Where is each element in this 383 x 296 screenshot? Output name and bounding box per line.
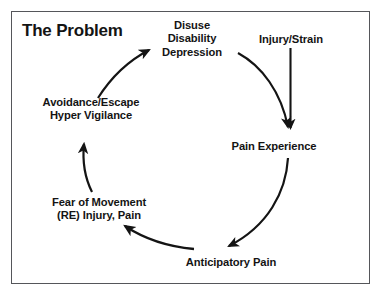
arrow-fear-of-movement-to-avoidance — [83, 144, 92, 192]
node-label-line: Injury/Strain — [244, 33, 338, 46]
node-label-line: Fear of Movement — [40, 196, 158, 209]
node-label-line: (RE) Injury, Pain — [40, 209, 158, 222]
node-anticipatory-pain: Anticipatory Pain — [172, 256, 290, 269]
node-label-line: Avoidance/Escape — [30, 96, 152, 109]
arrow-avoidance-to-disuse — [98, 50, 149, 98]
arrow-disuse-to-pain-experience — [238, 53, 288, 127]
node-label-line: Disability — [148, 32, 236, 45]
node-label-line: Depression — [148, 46, 236, 59]
node-fear-of-movement: Fear of Movement (RE) Injury, Pain — [40, 196, 158, 223]
node-avoidance-escape-hyper-vigilance: Avoidance/Escape Hyper Vigilance — [30, 96, 152, 123]
node-label-line: Disuse — [148, 19, 236, 32]
node-pain-experience: Pain Experience — [222, 140, 326, 153]
diagram-canvas: The Problem Disuse Disability Depression… — [0, 0, 383, 296]
node-label-line: Anticipatory Pain — [172, 256, 290, 269]
arrow-pain-experience-to-anticipatory-pain — [229, 158, 288, 246]
node-injury-strain: Injury/Strain — [244, 33, 338, 46]
node-label-line: Pain Experience — [222, 140, 326, 153]
node-label-line: Hyper Vigilance — [30, 109, 152, 122]
node-disuse-disability-depression: Disuse Disability Depression — [148, 19, 236, 59]
arrow-anticipatory-pain-to-fear-of-movement — [125, 226, 194, 249]
